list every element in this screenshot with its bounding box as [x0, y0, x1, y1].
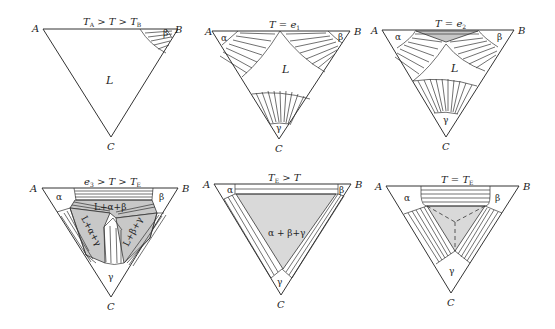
vertex-a-label: A — [202, 179, 210, 190]
phase-label-beta: β — [339, 185, 344, 195]
vertex-c-label: C — [442, 141, 450, 152]
phase-label-gamma: γ — [443, 115, 448, 125]
vertex-b-label: B — [354, 179, 362, 190]
eutectic-triangle — [427, 206, 485, 251]
panel-title: T = TE — [441, 174, 473, 186]
panel-5: α β γ α + β+γ A B C TE > T — [202, 172, 362, 310]
panel-title: TE > T — [268, 172, 302, 184]
phase-label-gamma: γ — [276, 123, 281, 133]
panel-title: e3 > T > TE — [84, 176, 141, 188]
vertex-b-label: B — [181, 183, 189, 194]
phase-label-liquid: L — [281, 63, 289, 76]
phase-label-gamma: γ — [449, 266, 454, 276]
vertex-a-label: A — [31, 23, 39, 34]
phase-label-alpha: α — [227, 185, 233, 195]
vertex-a-label: A — [204, 26, 212, 37]
phase-label-alpha: α — [221, 33, 227, 43]
panel-title: T = e1 — [269, 19, 300, 31]
phase-label-gamma: γ — [277, 277, 282, 287]
vertex-a-label: A — [374, 181, 382, 192]
panel-4: α β γ L+α+β L+α+γ L+β+γ A B C e3 > T > T… — [29, 176, 189, 312]
vertex-c-label: C — [275, 143, 283, 154]
vertex-a-label: A — [29, 183, 37, 194]
vertex-b-label: B — [517, 25, 525, 36]
panel-6: α β γ A B C T = TE — [374, 174, 530, 308]
phase-label-beta: β — [163, 28, 168, 38]
phase-label-beta: β — [159, 192, 164, 202]
panel-1: β L A B C TA > T > TB — [31, 16, 182, 152]
gamma-tie-lines — [256, 91, 304, 125]
vertex-c-label: C — [107, 301, 115, 312]
vertex-c-label: C — [107, 141, 115, 152]
ab-tie-lines — [75, 191, 153, 197]
panel-title: TA > T > TB — [83, 16, 142, 28]
phase-label-l-a-b: L+α+β — [94, 202, 126, 212]
phase-label-alpha: α — [395, 32, 401, 42]
alpha-tie-lines — [395, 38, 442, 74]
phase-label-three-phase: α + β+γ — [268, 228, 305, 238]
panel-3: α β γ L A B C T = e2 — [370, 18, 525, 152]
gamma-liquidus — [252, 93, 310, 99]
phase-label-gamma: γ — [108, 272, 113, 282]
three-phase-triangle — [416, 31, 478, 42]
vertex-b-label: B — [174, 24, 182, 35]
alpha-tie-lines — [220, 33, 275, 73]
beta-tie-lines — [286, 33, 338, 68]
phase-label-alpha: α — [404, 193, 410, 203]
phase-label-beta: β — [495, 193, 500, 203]
phase-label-beta: β — [497, 32, 502, 42]
vertex-c-label: C — [277, 299, 285, 310]
vertex-c-label: C — [447, 297, 455, 308]
vertex-a-label: A — [370, 25, 378, 36]
vertex-b-label: B — [353, 26, 361, 37]
phase-label-alpha: α — [56, 192, 62, 202]
phase-label-beta: β — [338, 32, 343, 42]
ternary-isothermal-sections: β L A B C TA > T > TB — [0, 0, 555, 329]
phase-label-liquid: L — [105, 74, 113, 87]
phase-label-liquid: L — [450, 62, 458, 75]
ab-tie-lines — [421, 190, 490, 202]
vertex-b-label: B — [522, 181, 530, 192]
panel-2: α β γ L A B C T = e1 — [204, 19, 361, 154]
panel-title: T = e2 — [435, 18, 466, 30]
